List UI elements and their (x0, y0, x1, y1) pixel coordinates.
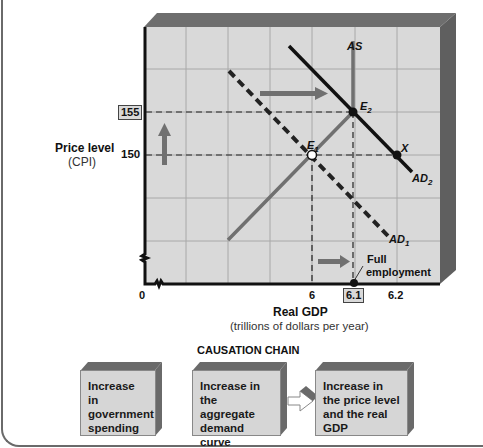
chart-side-bevel (440, 13, 456, 284)
e2-label: E2 (360, 100, 372, 115)
ad2-label: AD2 (412, 172, 432, 187)
y-axis-title: Price level (55, 141, 114, 155)
employment-label: employment (366, 266, 431, 278)
e2-point (349, 108, 358, 117)
full-label: Full (367, 253, 387, 265)
x-tick-6-2: 6.2 (388, 289, 403, 301)
x-axis-subtitle: (trillions of dollars per year) (230, 320, 369, 332)
y-axis-subtitle: (CPI) (68, 155, 96, 169)
chart-top-bevel (144, 13, 456, 27)
y-tick-150: 150 (121, 148, 140, 160)
x-tick-6-1: 6.1 (343, 288, 364, 303)
x-tick-6: 6 (309, 289, 315, 301)
full-employment-point (350, 279, 358, 287)
x-point-label: X (401, 142, 408, 154)
causation-chain-title: CAUSATION CHAIN (197, 344, 299, 356)
y-tick-155: 155 (118, 105, 142, 120)
ad1-label: AD1 (389, 233, 409, 248)
x-tick-0: 0 (139, 289, 145, 301)
as-label: AS (347, 40, 362, 52)
e1-label: E1 (307, 139, 319, 154)
x-axis-title: Real GDP (273, 305, 328, 319)
